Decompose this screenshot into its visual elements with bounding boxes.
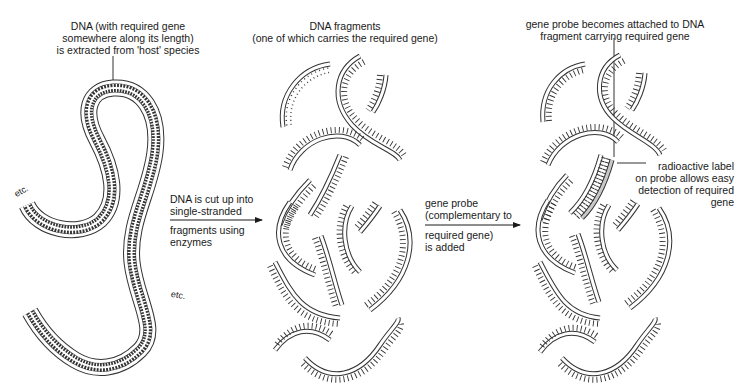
fragment [627,73,645,110]
fragment [340,206,360,274]
fragment [599,55,664,155]
fragment [280,180,314,228]
fragment [355,203,380,232]
fragment [572,234,599,304]
fragment [560,318,658,380]
fragment [310,155,346,217]
fragment [338,56,404,160]
fragment [626,208,670,308]
fragment [285,130,364,170]
fragment [275,326,332,350]
fragment [540,175,571,223]
fragment [303,318,401,380]
fragment [368,75,386,112]
fragment [540,328,597,352]
dna-fragments-stage3 [535,38,670,380]
fragment [613,201,638,230]
fragment [315,236,342,307]
dna-double-strand [27,56,156,367]
fragment [366,210,410,310]
dna-fragments-stage2 [270,56,410,380]
fragment [597,205,617,272]
fragment [543,64,585,122]
diagram-artwork [0,0,741,391]
fragment [282,64,330,127]
